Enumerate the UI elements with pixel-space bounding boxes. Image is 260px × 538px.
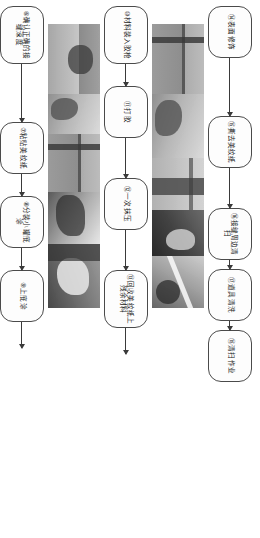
flow-row-3: ⑥确认正确的接缝深度 ⑦粘贴美纹纸 ⑧分装小罐底涂 ⑨上底涂 xyxy=(0,0,48,538)
flow-row-2: ⑩材料装入胶枪 ⑪打胶 ⑫一次抹压 ⑬回收美纹纸上残余材料 xyxy=(100,0,152,538)
flow-node-8[interactable]: ⑧分装小罐底涂 xyxy=(0,196,44,248)
flow-node-15[interactable]: ⑮撕去美纹纸 xyxy=(208,116,252,168)
flow-node-label: ⑮撕去美纹纸 xyxy=(226,121,233,164)
flow-node-9[interactable]: ⑨上底涂 xyxy=(0,270,44,322)
flow-node-label: ⑦粘贴美纹纸 xyxy=(18,127,25,169)
flow-node-label: ⑫一次抹压 xyxy=(122,186,129,222)
flow-node-label: ⑧分装小罐底涂 xyxy=(15,200,30,244)
flow-node-label: ⑬回收美纹纸上残余材料 xyxy=(119,274,134,324)
arrow-connector xyxy=(126,230,127,270)
arrow-connector xyxy=(230,168,231,208)
flow-node-16[interactable]: ⑯接缝周边清扫 xyxy=(208,208,252,260)
flow-node-label: ⑪打胶 xyxy=(122,101,129,122)
flow-node-label: ⑥确认正确的接缝深度 xyxy=(15,10,30,60)
rotated-page-wrapper: ⑭表面修饰 ⑮撕去美纹纸 ⑯接缝周边清扫 ⑰道具清洗 ⑱清扫作业 xyxy=(0,0,260,538)
arrow-connector xyxy=(230,58,231,116)
flow-row-1: ⑭表面修饰 ⑮撕去美纹纸 ⑯接缝周边清扫 ⑰道具清洗 ⑱清扫作业 xyxy=(204,0,256,538)
flow-node-12[interactable]: ⑫一次抹压 xyxy=(104,178,148,230)
arrow-connector xyxy=(230,321,231,330)
arrow-connector xyxy=(230,260,231,269)
flow-node-17[interactable]: ⑰道具清洗 xyxy=(208,269,252,321)
flow-node-7[interactable]: ⑦粘贴美纹纸 xyxy=(0,122,44,174)
arrow-connector-wrap xyxy=(22,322,23,348)
process-band-3: ⑥确认正确的接缝深度 ⑦粘贴美纹纸 ⑧分装小罐底涂 ⑨上底涂 xyxy=(0,0,48,538)
photo-residue-recovery xyxy=(48,192,100,244)
flow-node-label: ⑰道具清洗 xyxy=(226,277,233,313)
flow-node-label: ⑩材料装入胶枪 xyxy=(122,11,129,60)
process-band-2: ⑩材料装入胶枪 ⑪打胶 ⑫一次抹压 ⑬回收美纹纸上残余材料 xyxy=(48,0,152,538)
photo-strip-2 xyxy=(48,24,100,538)
flow-node-18[interactable]: ⑱清扫作业 xyxy=(208,330,252,382)
photo-tool-hand xyxy=(152,158,204,210)
flow-node-10[interactable]: ⑩材料装入胶枪 xyxy=(104,6,148,64)
photo-wall-joint xyxy=(152,24,204,94)
flow-node-label: ⑯接缝周边清扫 xyxy=(223,212,238,256)
flow-node-label: ⑱清扫作业 xyxy=(226,338,233,374)
arrow-connector xyxy=(126,138,127,178)
flowchart-sheet: ⑭表面修饰 ⑮撕去美纹纸 ⑯接缝周边清扫 ⑰道具清洗 ⑱清扫作业 xyxy=(0,0,260,538)
photo-smoothing xyxy=(48,134,100,192)
arrow-connector xyxy=(22,64,23,122)
photo-worker-wall xyxy=(152,94,204,158)
photo-gun-loading xyxy=(48,24,100,94)
arrow-connector xyxy=(126,64,127,86)
flow-node-13[interactable]: ⑬回收美纹纸上残余材料 xyxy=(104,270,148,328)
photo-caulking xyxy=(48,94,100,134)
arrow-connector xyxy=(22,248,23,270)
photo-hand-closeup xyxy=(152,210,204,256)
photo-tape-removal xyxy=(48,244,100,308)
photo-strip-1 xyxy=(152,24,204,538)
photo-cleaning-tool xyxy=(152,256,204,308)
arrow-connector xyxy=(22,174,23,196)
flow-node-14[interactable]: ⑭表面修饰 xyxy=(208,6,252,58)
flow-node-label: ⑨上底涂 xyxy=(18,282,25,309)
flow-node-label: ⑭表面修饰 xyxy=(226,14,233,50)
process-band-1: ⑭表面修饰 ⑮撕去美纹纸 ⑯接缝周边清扫 ⑰道具清洗 ⑱清扫作业 xyxy=(152,0,256,538)
flow-node-11[interactable]: ⑪打胶 xyxy=(104,86,148,138)
arrow-connector-wrap xyxy=(126,328,127,354)
flow-node-6[interactable]: ⑥确认正确的接缝深度 xyxy=(0,6,44,64)
